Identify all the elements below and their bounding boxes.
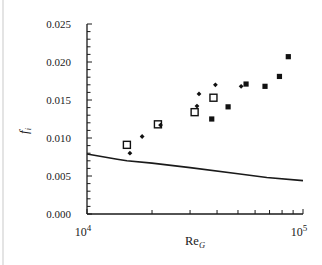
- filled-square-marker: [262, 84, 267, 89]
- correlation-line: [87, 154, 303, 181]
- diamond-marker: [195, 104, 200, 109]
- diamond-marker: [239, 84, 244, 89]
- y-tick-label: 0.020: [46, 56, 71, 68]
- x-tick-label: 104: [75, 223, 92, 239]
- open-square-marker: [210, 94, 217, 101]
- filled-square-marker: [277, 74, 282, 79]
- filled-square-marker: [243, 81, 248, 86]
- axis-labels: 0.0000.0050.0100.0150.0200.025104105ReGf…: [16, 18, 308, 250]
- filled-square-marker: [286, 54, 291, 59]
- filled-square-marker: [225, 104, 230, 109]
- y-tick-label: 0.025: [46, 18, 71, 30]
- diamond-marker: [140, 134, 145, 139]
- y-tick-label: 0.000: [46, 208, 71, 220]
- diamond-marker: [197, 92, 202, 97]
- open-square-marker: [123, 141, 130, 148]
- open-square-marker: [191, 109, 198, 116]
- y-tick-label: 0.015: [46, 94, 71, 106]
- x-axis-title: ReG: [185, 234, 205, 250]
- y-tick-label: 0.010: [46, 132, 71, 144]
- x-tick-label: 105: [291, 223, 308, 239]
- diamond-marker: [128, 151, 133, 156]
- data-markers: [123, 54, 291, 156]
- axes: [87, 24, 303, 214]
- y-tick-label: 0.005: [46, 170, 71, 182]
- diamond-marker: [213, 82, 218, 87]
- filled-square-marker: [209, 116, 214, 121]
- correlation-curve: [87, 154, 303, 181]
- y-axis-title: fi: [16, 128, 33, 134]
- friction-factor-chart: 0.0000.0050.0100.0150.0200.025104105ReGf…: [0, 0, 322, 265]
